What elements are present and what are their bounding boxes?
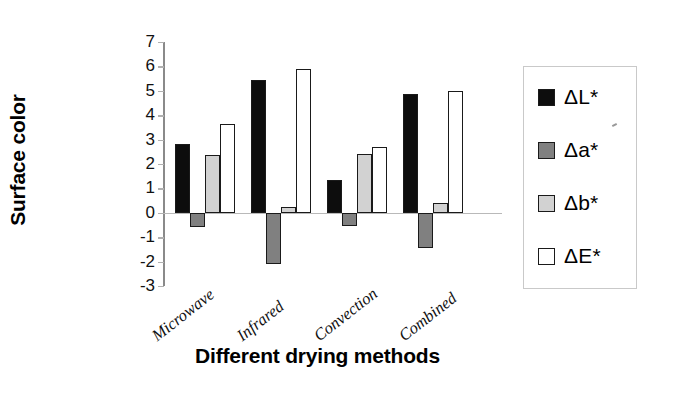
bar bbox=[448, 91, 463, 213]
x-axis-category-label: Convection bbox=[310, 284, 382, 346]
bar bbox=[342, 213, 357, 226]
bar bbox=[296, 69, 311, 213]
legend-swatch bbox=[538, 248, 555, 265]
y-axis-tick bbox=[158, 262, 164, 263]
bar bbox=[281, 207, 296, 213]
bar bbox=[433, 203, 448, 213]
y-axis-tick-label: 7 bbox=[146, 32, 155, 52]
legend-item[interactable]: ΔE* bbox=[538, 244, 601, 268]
bar bbox=[357, 154, 372, 213]
bar bbox=[175, 144, 190, 212]
y-axis-tick bbox=[158, 237, 164, 238]
y-axis-tick bbox=[158, 164, 164, 165]
x-axis-title-text: Different drying methods bbox=[195, 344, 440, 368]
y-axis-tick bbox=[158, 42, 164, 43]
y-axis-tick bbox=[158, 66, 164, 67]
legend-label: ΔE* bbox=[564, 244, 601, 268]
legend-item[interactable]: Δb* bbox=[538, 191, 598, 215]
x-axis-category-label: Combined bbox=[395, 288, 461, 346]
legend-swatch bbox=[538, 142, 555, 159]
x-axis-category-label: Microwave bbox=[148, 285, 218, 346]
y-axis-tick bbox=[158, 91, 164, 92]
y-axis-tick bbox=[158, 213, 164, 214]
bar bbox=[190, 213, 205, 228]
y-axis-tick-label: 5 bbox=[146, 81, 155, 101]
legend-item[interactable]: Δa* bbox=[538, 138, 598, 162]
y-axis-title: Surface color bbox=[6, 60, 42, 260]
legend-item[interactable]: ΔL* bbox=[538, 85, 598, 109]
y-axis-tick bbox=[158, 286, 164, 287]
bar bbox=[220, 124, 235, 213]
bar bbox=[251, 80, 266, 213]
bar bbox=[372, 147, 387, 213]
scan-artifact-speck bbox=[612, 123, 617, 127]
bar bbox=[403, 94, 418, 212]
plot-area: 76543210-1-2-3 bbox=[163, 42, 488, 286]
legend-swatch bbox=[538, 195, 555, 212]
bar-chart: Surface color 76543210-1-2-3 MicrowaveIn… bbox=[0, 0, 673, 401]
x-axis-title: Different drying methods bbox=[0, 344, 673, 368]
y-axis-tick-label: 2 bbox=[146, 154, 155, 174]
zero-baseline bbox=[163, 213, 502, 214]
legend-label: ΔL* bbox=[564, 85, 598, 109]
y-axis-tick-label: -2 bbox=[140, 252, 155, 272]
y-axis-tick bbox=[158, 115, 164, 116]
y-axis-tick bbox=[158, 188, 164, 189]
bar bbox=[418, 213, 433, 248]
y-axis-tick-label: 1 bbox=[146, 178, 155, 198]
x-axis-category-label: Infrared bbox=[233, 297, 288, 346]
legend-swatch bbox=[538, 89, 555, 106]
y-axis-tick-label: 3 bbox=[146, 130, 155, 150]
bar bbox=[327, 180, 342, 213]
y-axis-tick-label: 0 bbox=[146, 203, 155, 223]
y-axis-tick bbox=[158, 140, 164, 141]
legend-label: Δa* bbox=[564, 138, 598, 162]
y-axis-tick-label: -1 bbox=[140, 227, 155, 247]
legend: ΔL*Δa*Δb*ΔE* bbox=[523, 66, 637, 289]
bar bbox=[205, 155, 220, 212]
y-axis-tick-label: -3 bbox=[140, 276, 155, 296]
y-axis-tick-label: 6 bbox=[146, 56, 155, 76]
bar bbox=[266, 213, 281, 264]
legend-label: Δb* bbox=[564, 191, 598, 215]
y-axis-tick-label: 4 bbox=[146, 105, 155, 125]
